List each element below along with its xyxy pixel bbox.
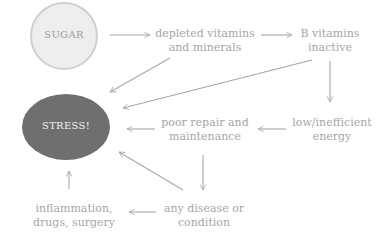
- arrow-b-vitamins-to-stress: [123, 60, 312, 108]
- low-energy-node: low/inefficient energy: [284, 116, 380, 144]
- inflammation-node: inflammation, drugs, surgery: [24, 202, 124, 230]
- diagram-canvas: SUGAR STRESS! depleted vitamins and mine…: [0, 0, 383, 239]
- depleted-vitamins-node: depleted vitamins and minerals: [148, 27, 262, 55]
- poor-repair-node: poor repair and maintenance: [150, 116, 260, 144]
- disease-node: any disease or condition: [156, 202, 252, 230]
- arrow-disease-to-stress: [119, 152, 183, 190]
- b-vitamins-node: B vitamins inactive: [290, 27, 370, 55]
- sugar-label: SUGAR: [30, 29, 98, 40]
- arrow-depleted-to-stress: [110, 58, 170, 92]
- stress-label: STRESS!: [22, 120, 110, 131]
